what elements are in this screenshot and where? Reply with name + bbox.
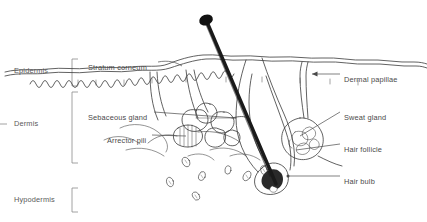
epidermal-downgrowth-right2 [194,70,208,112]
skin-surface-outer [5,55,427,72]
leader-arrector-pili [152,135,186,136]
arrowhead-dermal-papillae [312,72,318,77]
layer-brackets [72,59,78,212]
adipose-cells [165,156,268,202]
sweat-duct-2 [306,62,308,118]
hair-tip [198,13,215,28]
leader-hair-follicle [296,144,340,150]
skin-cross-section-figure: Epidermis Dermis Hypodermis Stratum corn… [0,0,427,222]
label-dermal-papillae: Dermal papillae [344,76,398,83]
dot-hair-bulb [287,175,290,178]
follicle-sheath-b [266,76,291,170]
leader-sweat-gland [300,112,340,136]
skin-surface-inner [5,59,427,76]
skin-diagram-artwork [0,0,427,222]
sweat-gland-tail [318,156,342,166]
hair-bulb [255,163,289,195]
bracket-hypodermis [72,188,78,212]
leader-sebaceous-gland [154,112,236,118]
label-hair-bulb: Hair bulb [344,178,375,185]
epidermal-downgrowth-left2 [157,72,166,116]
label-arrector-pili: Arrector pili [107,137,146,144]
label-stratum-corneum: Stratum corneum [88,64,147,71]
hair-shaft [198,13,276,184]
layer-label-dermis: Dermis [14,120,38,127]
label-sweat-gland: Sweat gland [344,114,386,121]
bracket-dermis [72,92,78,163]
layer-label-hypodermis: Hypodermis [14,196,55,203]
wavy-junction [30,71,234,88]
label-sebaceous-gland: Sebaceous gland [88,114,147,121]
layer-label-epidermis: Epidermis [14,67,48,74]
sweat-duct [300,62,304,118]
label-hair-follicle: Hair follicle [344,146,382,153]
follicle-funnel-right [262,58,295,166]
